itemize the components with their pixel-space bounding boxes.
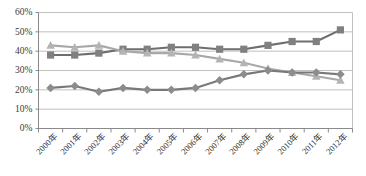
y-tick-label: 50% — [15, 27, 33, 37]
data-point-marker — [313, 38, 320, 45]
data-point-marker — [337, 26, 344, 33]
y-tick-label: 20% — [15, 85, 33, 95]
y-tick-label: 60% — [15, 7, 33, 17]
data-point-marker — [95, 50, 102, 57]
data-point-marker — [216, 46, 223, 53]
chart-container: 0%10%20%30%40%50%60% 2000年2001年2002年2003… — [0, 0, 366, 176]
data-point-marker — [240, 46, 247, 53]
line-chart: 0%10%20%30%40%50%60% 2000年2001年2002年2003… — [0, 0, 366, 176]
data-point-marker — [192, 44, 199, 51]
y-tick-label: 40% — [15, 46, 33, 56]
data-point-marker — [289, 38, 296, 45]
y-tick-label: 10% — [15, 104, 33, 114]
data-point-marker — [71, 51, 78, 58]
data-point-marker — [47, 51, 54, 58]
data-point-marker — [264, 42, 271, 49]
y-tick-label: 0% — [20, 123, 33, 133]
y-tick-label: 30% — [15, 65, 33, 75]
